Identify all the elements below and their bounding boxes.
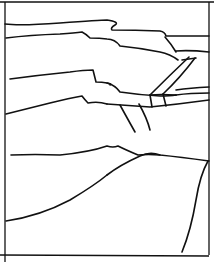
- landscape-sketch: [0, 0, 214, 264]
- lower-hills: [6, 146, 209, 252]
- picture-frame: [0, 2, 214, 262]
